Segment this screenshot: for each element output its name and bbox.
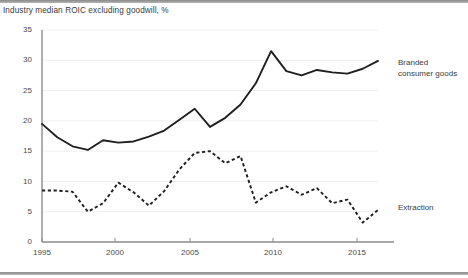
y-tick-label-0: 0 <box>10 237 32 246</box>
y-tick-label-35: 35 <box>10 25 32 34</box>
series-line-branded-consumer-goods <box>42 51 378 150</box>
legend-label-branded-consumer-goods: Branded consumer goods <box>398 58 457 79</box>
x-tick-label-1995: 1995 <box>25 248 59 257</box>
y-tick-label-20: 20 <box>10 116 32 125</box>
legend-label-extraction: Extraction <box>398 203 434 214</box>
x-tick-label-2000: 2000 <box>98 248 132 257</box>
x-tick-label-2010: 2010 <box>256 248 290 257</box>
plot-area <box>0 0 468 278</box>
y-tick-label-5: 5 <box>10 207 32 216</box>
y-tick-label-30: 30 <box>10 55 32 64</box>
y-tick-label-15: 15 <box>10 146 32 155</box>
x-tick-label-2005: 2005 <box>173 248 207 257</box>
y-tick-label-10: 10 <box>10 177 32 186</box>
y-tick-label-25: 25 <box>10 86 32 95</box>
chart-figure: Industry median ROIC excluding goodwill,… <box>0 0 468 278</box>
gridlines <box>42 30 378 212</box>
x-tick-label-2015: 2015 <box>340 248 374 257</box>
